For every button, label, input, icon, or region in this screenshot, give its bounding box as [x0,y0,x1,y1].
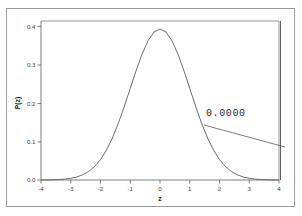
y-axis-title-group: P(z) [14,97,22,109]
y-tick-label-1: 0.1 [27,138,36,145]
y-axis-title: P(z) [14,97,22,109]
y-tick-label-2: 0.2 [27,100,36,107]
x-tick-label-4: 0 [158,185,162,192]
x-tick-label-8: 4 [277,185,281,192]
x-tick-label-0: -4 [38,185,44,192]
y-axis: 0.0 0.1 0.2 0.3 0.4 [27,21,41,183]
x-tick-label-6: 2 [218,185,222,192]
y-tick-label-0: 0.0 [27,176,36,183]
normal-distribution-chart-window: 0.0 0.1 0.2 0.3 0.4 P(z) -4 -3 -2 -1 0 1 [0,0,302,216]
x-tick-label-3: -1 [127,185,133,192]
x-tick-label-1: -3 [68,185,74,192]
x-axis-title: z [158,195,162,202]
x-tick-label-2: -2 [98,185,104,192]
tail-probability-label: 0.0000 [206,108,246,119]
x-tick-label-7: 3 [248,185,252,192]
y-tick-label-4: 0.4 [27,23,36,30]
x-axis: -4 -3 -2 -1 0 1 2 3 4 z [38,180,281,202]
chart-canvas: 0.0 0.1 0.2 0.3 0.4 P(z) -4 -3 -2 -1 0 1 [0,0,302,216]
x-tick-label-5: 1 [188,185,192,192]
y-tick-label-3: 0.3 [27,61,36,68]
annotation-leader-line [204,125,285,147]
normal-density-curve [41,29,279,180]
plot-frame [41,21,279,180]
